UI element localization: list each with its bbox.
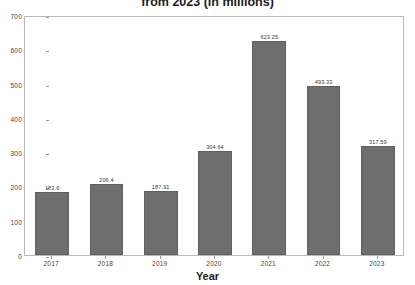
x-axis-title: Year (0, 270, 415, 282)
x-axis-tick-label-2019: 2019 (133, 260, 187, 267)
y-axis-tick-label: 0 (0, 253, 22, 260)
x-axis-tick-label-2018: 2018 (78, 260, 132, 267)
y-axis-tick-mark (46, 51, 49, 52)
bar-2017[interactable] (35, 192, 69, 255)
x-axis-tick-label-2021: 2021 (241, 260, 295, 267)
y-axis-tick-mark (46, 154, 49, 155)
x-axis-tick-label-2023: 2023 (350, 260, 404, 267)
y-axis-tick-mark (46, 120, 49, 121)
plot-area: 183.6206.4187.91304.64623.25493.33317.59 (24, 16, 404, 256)
x-axis-tick-label-2020: 2020 (187, 260, 241, 267)
bar-value-label-2020: 304.64 (188, 144, 242, 150)
bar-2022[interactable] (307, 86, 341, 255)
bar-value-label-2017: 183.6 (25, 185, 79, 191)
bar-2023[interactable] (361, 146, 395, 255)
x-axis-tick-mark (160, 256, 161, 259)
bar-value-label-2023: 317.59 (351, 139, 405, 145)
y-axis-tick-label: 600 (0, 47, 22, 54)
x-axis-tick-mark (268, 256, 269, 259)
y-axis-tick-mark (46, 257, 49, 258)
bar-2018[interactable] (90, 184, 124, 255)
bar-value-label-2018: 206.4 (79, 177, 133, 183)
y-axis-tick-label: 400 (0, 115, 22, 122)
bar-value-label-2022: 493.33 (296, 79, 350, 85)
bar-value-label-2021: 623.25 (242, 34, 296, 40)
x-axis-tick-mark (51, 256, 52, 259)
y-axis-tick-label: 300 (0, 150, 22, 157)
y-axis-tick-label: 100 (0, 218, 22, 225)
bar-2019[interactable] (144, 191, 178, 255)
bar-value-label-2019: 187.91 (134, 184, 188, 190)
bar-2021[interactable] (252, 41, 286, 255)
x-axis-tick-label-2017: 2017 (24, 260, 78, 267)
bar-chart-screenshot: from 2023 (in millions) 183.6206.4187.91… (0, 0, 415, 285)
y-axis-tick-label: 500 (0, 81, 22, 88)
y-axis-tick-mark (46, 17, 49, 18)
y-axis-tick-label: 700 (0, 13, 22, 20)
x-axis-tick-label-2022: 2022 (295, 260, 349, 267)
x-axis-tick-mark (377, 256, 378, 259)
x-axis-tick-mark (323, 256, 324, 259)
y-axis-tick-mark (46, 86, 49, 87)
chart-title: from 2023 (in millions) (0, 0, 415, 10)
bar-2020[interactable] (198, 151, 232, 255)
x-axis-tick-mark (105, 256, 106, 259)
y-axis-tick-label: 200 (0, 184, 22, 191)
x-axis-tick-mark (214, 256, 215, 259)
